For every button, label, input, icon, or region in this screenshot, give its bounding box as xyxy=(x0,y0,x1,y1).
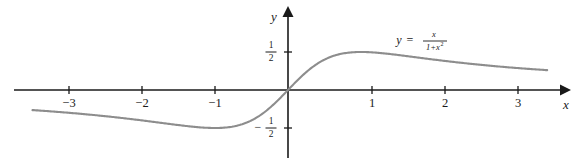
y-tick-minus-half-numerator: 1 xyxy=(269,116,274,126)
y-axis-arrowhead xyxy=(283,6,294,17)
x-tick-labels: −3 −2 −1 1 2 3 xyxy=(62,96,521,110)
x-tick-label-1: 1 xyxy=(369,96,375,110)
y-axis-label: y xyxy=(269,9,277,24)
x-tick-label-2: 2 xyxy=(442,96,448,110)
y-tick-label-half: 1 2 xyxy=(266,40,277,63)
x-tick-label-minus2: −2 xyxy=(135,96,148,110)
x-axis-label: x xyxy=(562,97,569,112)
x-tick-label-minus1: −1 xyxy=(208,96,221,110)
y-tick-half-denominator: 2 xyxy=(269,53,274,63)
x-tick-label-minus3: −3 xyxy=(62,96,75,110)
equation-numerator: x xyxy=(431,29,436,39)
equation-lhs: y xyxy=(395,33,402,47)
equation-equals-sign: = xyxy=(407,33,414,47)
y-tick-minus-half-sign: − xyxy=(255,120,262,134)
y-tick-label-minus-half: − 1 2 xyxy=(255,116,277,139)
equation-denominator: 1+x xyxy=(426,42,440,52)
function-plot-figure: x y −3 −2 −1 1 2 3 xyxy=(0,0,577,164)
plot-canvas: x y −3 −2 −1 1 2 3 xyxy=(0,0,577,164)
x-axis: x xyxy=(14,85,571,112)
x-axis-arrowhead xyxy=(560,85,571,96)
x-tick-label-3: 3 xyxy=(515,96,521,110)
equation-denominator-exponent: 2 xyxy=(441,41,444,47)
equation-annotation: y = x 1+x 2 xyxy=(395,29,447,52)
y-tick-minus-half-denominator: 2 xyxy=(269,129,274,139)
y-tick-half-numerator: 1 xyxy=(269,40,274,50)
